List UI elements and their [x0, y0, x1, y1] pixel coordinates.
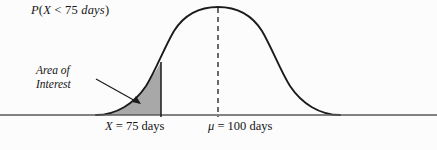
probability-variable: X: [43, 3, 51, 17]
probability-less-than: <: [54, 3, 61, 17]
probability-p-symbol: P: [31, 3, 39, 17]
area-of-interest-line2: Interest: [36, 78, 71, 92]
area-of-interest-line1: Area of: [36, 64, 71, 78]
normal-distribution-figure: P(X < 75 days) Area of Interest X = 75 d…: [0, 0, 437, 150]
probability-units: days: [81, 3, 105, 17]
area-of-interest-label: Area of Interest: [36, 64, 71, 91]
threshold-symbol: X: [105, 119, 113, 133]
threshold-value-text: = 75 days: [116, 119, 165, 133]
shaded-area-of-interest: [96, 62, 161, 115]
probability-value: 75: [65, 3, 78, 17]
probability-close-paren: ): [105, 3, 109, 17]
threshold-tick-label: X = 75 days: [105, 119, 164, 134]
area-callout-arrow-line: [96, 79, 139, 103]
probability-expression-label: P(X < 75 days): [31, 3, 109, 18]
mean-value-text: = 100 days: [217, 119, 272, 133]
mean-tick-label: μ = 100 days: [208, 119, 272, 134]
